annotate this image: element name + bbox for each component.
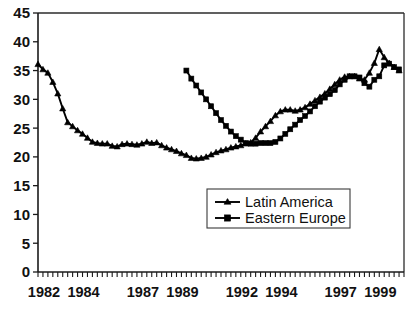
x-tick-label: 1994 <box>265 284 297 300</box>
data-point <box>352 74 357 79</box>
data-point <box>60 105 66 111</box>
y-tick-label: 30 <box>13 91 30 108</box>
data-point <box>312 104 317 109</box>
x-tick-label: 1989 <box>166 284 198 300</box>
data-point <box>248 141 253 146</box>
data-point <box>233 134 238 139</box>
chart-legend: Latin America Eastern Europe <box>207 189 350 228</box>
data-point <box>273 139 278 144</box>
data-point <box>209 104 214 109</box>
data-point <box>371 60 377 66</box>
y-tick-label: 15 <box>13 177 30 194</box>
y-tick-label: 45 <box>13 4 30 21</box>
data-point <box>288 127 293 132</box>
data-point <box>263 141 268 146</box>
data-point <box>184 68 189 73</box>
series-latin-america <box>35 46 402 161</box>
data-point <box>55 90 61 96</box>
data-point <box>377 74 382 79</box>
chart-container: 051015202530354045 198219841987198919921… <box>0 0 420 310</box>
data-point <box>347 74 352 79</box>
data-point <box>204 97 209 102</box>
y-tick-label: 40 <box>13 33 30 50</box>
data-point <box>243 141 248 146</box>
data-point <box>253 141 258 146</box>
line-chart: 051015202530354045 198219841987198919921… <box>0 0 420 310</box>
data-point <box>283 131 288 136</box>
legend-label-latin-america: Latin America <box>245 194 334 210</box>
legend-label-eastern-europe: Eastern Europe <box>245 210 346 226</box>
data-point <box>194 83 199 88</box>
data-point <box>298 118 303 123</box>
data-point <box>337 82 342 87</box>
data-point <box>372 77 377 82</box>
x-tick-label: 1992 <box>226 284 258 300</box>
x-tick-label: 1987 <box>127 284 159 300</box>
data-point <box>392 65 397 70</box>
data-point <box>387 61 392 66</box>
data-point <box>214 111 219 116</box>
series-group <box>35 46 402 161</box>
data-point <box>268 141 273 146</box>
data-point <box>223 123 228 128</box>
data-point <box>303 114 308 119</box>
data-point <box>382 63 387 68</box>
square-icon <box>224 215 230 221</box>
data-point <box>228 129 233 134</box>
data-point <box>362 81 367 86</box>
x-tick-label: 1982 <box>28 284 60 300</box>
data-point <box>317 99 322 104</box>
x-tick-label: 1984 <box>67 284 99 300</box>
x-axis-labels: 19821984198719891992199419971999 <box>28 284 397 300</box>
y-tick-label: 25 <box>13 120 30 137</box>
data-point <box>189 76 194 81</box>
data-point <box>342 77 347 82</box>
data-point <box>219 118 224 123</box>
y-tick-label: 20 <box>13 148 30 165</box>
data-point <box>376 46 382 52</box>
data-point <box>238 137 243 142</box>
y-tick-label: 5 <box>22 235 30 252</box>
x-tick-label: 1999 <box>364 284 396 300</box>
data-point <box>258 141 263 146</box>
data-point <box>397 67 402 72</box>
y-tick-label: 0 <box>22 263 30 280</box>
data-point <box>322 95 327 100</box>
y-tick-label: 35 <box>13 62 30 79</box>
y-tick-label: 10 <box>13 206 30 223</box>
y-axis: 051015202530354045 <box>13 4 38 280</box>
x-axis-ticks <box>38 272 404 277</box>
data-point <box>332 88 337 93</box>
data-point <box>35 61 41 67</box>
x-tick-label: 1997 <box>325 284 357 300</box>
data-point <box>327 92 332 97</box>
data-point <box>199 90 204 95</box>
data-point <box>308 109 313 114</box>
data-point <box>278 136 283 141</box>
data-point <box>357 75 362 80</box>
data-point <box>65 119 71 125</box>
data-point <box>367 84 372 89</box>
data-point <box>293 122 298 127</box>
